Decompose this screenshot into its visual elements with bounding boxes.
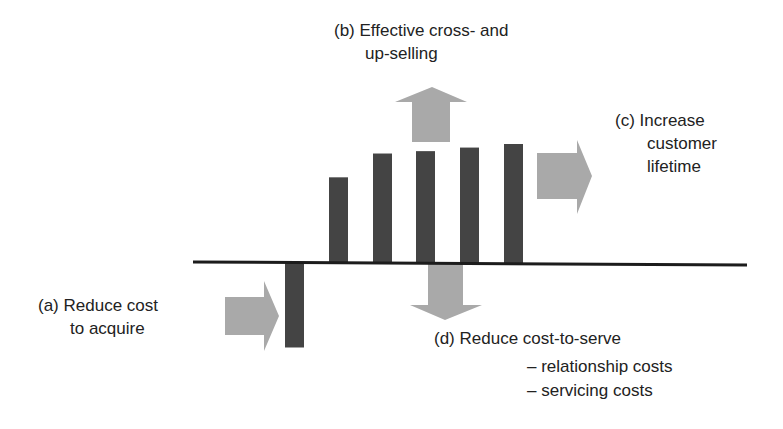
bar-3 [373, 154, 392, 263]
bars-layer [285, 144, 523, 347]
label-c-title: (c) Increase [615, 110, 705, 132]
baseline-axis [193, 262, 747, 265]
label-c-line2: customer [647, 133, 717, 155]
label-a-title: (a) Reduce cost [38, 295, 158, 317]
label-b-subtitle: up-selling [365, 43, 438, 65]
bar-6 [504, 144, 523, 263]
customer-value-diagram: (b) Effective cross- and up-selling (c) … [0, 0, 783, 429]
bar-2 [329, 177, 348, 263]
label-c-line3: lifetime [647, 156, 701, 178]
label-d-title: (d) Reduce cost-to-serve [434, 328, 621, 350]
arrow-d-down-icon [410, 264, 482, 320]
arrows-layer [225, 87, 592, 351]
arrow-b-up-icon [395, 87, 467, 142]
bar-1 [285, 263, 304, 347]
bar-5 [460, 148, 479, 263]
label-d-servicing-costs: – servicing costs [527, 380, 653, 402]
arrow-c-right-icon [537, 140, 592, 214]
label-b-title: (b) Effective cross- and [334, 20, 508, 42]
arrow-a-right-icon [225, 281, 279, 351]
label-a-line2: to acquire [70, 318, 145, 340]
label-d-relationship-costs: – relationship costs [527, 356, 673, 378]
bar-4 [416, 151, 435, 263]
